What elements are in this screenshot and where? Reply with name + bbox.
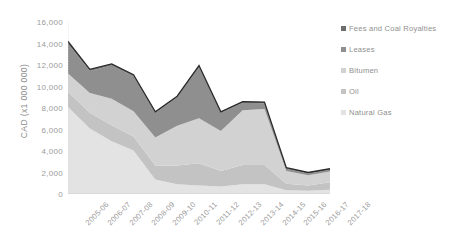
legend-item[interactable]: Natural Gas (341, 102, 452, 123)
x-axis-tick-label: 2006-07 (105, 200, 132, 227)
legend-item-label: Fees and Coal Royalties (349, 24, 436, 33)
x-axis-tick-label: 2017-18 (346, 200, 373, 227)
legend-swatch-icon (341, 47, 346, 52)
legend-item-label: Natural Gas (349, 108, 392, 117)
x-axis-tick-label: 2005-06 (84, 200, 111, 227)
x-axis-tick-label: 2010-11 (193, 200, 220, 227)
legend-item-label: Leases (349, 45, 375, 54)
chart-legend: Fees and Coal RoyaltiesLeasesBitumenOilN… (341, 18, 452, 123)
x-axis-tick-label: 2011-12 (214, 200, 241, 227)
legend-item-label: Bitumen (349, 66, 378, 75)
legend-swatch-icon (341, 89, 346, 94)
legend-item[interactable]: Bitumen (341, 60, 452, 81)
legend-swatch-icon (341, 26, 346, 31)
legend-item[interactable]: Oil (341, 81, 452, 102)
legend-swatch-icon (341, 110, 346, 115)
x-axis-tick-label: 2016-17 (324, 200, 351, 227)
legend-item[interactable]: Fees and Coal Royalties (341, 18, 452, 39)
stacked-area-chart: CAD (x1 000 000) 02,0004,0006,0008,00010… (0, 0, 452, 251)
legend-item[interactable]: Leases (341, 39, 452, 60)
legend-swatch-icon (341, 68, 346, 73)
legend-item-label: Oil (349, 87, 359, 96)
x-axis-tick-label: 2012-13 (236, 200, 263, 227)
